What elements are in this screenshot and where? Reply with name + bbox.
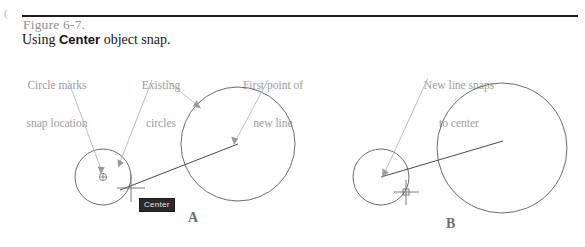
figure-artwork	[0, 0, 585, 247]
panel-a-geometry	[75, 87, 295, 205]
figure-page: ( Figure 6-7. Using Center object snap. …	[0, 0, 585, 247]
leader-existing-circles-left	[120, 80, 152, 162]
leader-existing-circles-right	[166, 80, 197, 105]
panel-a-new-line	[120, 144, 238, 190]
panel-b-letter: B	[446, 216, 455, 232]
leader-new-line-snaps-to-center	[385, 78, 428, 172]
panel-b-large-circle	[437, 83, 567, 213]
panel-b-crosshair-cursor	[394, 180, 419, 205]
panel-a-leaders	[68, 80, 268, 175]
panel-a-letter: A	[188, 210, 198, 226]
center-osnap-tooltip: Center	[139, 198, 175, 212]
panel-b-snapped-line	[381, 141, 503, 177]
panel-b-geometry	[353, 83, 567, 213]
arrowhead-new-line-snaps-to-center	[382, 168, 389, 178]
panel-a-center-snap-marker	[99, 173, 106, 180]
